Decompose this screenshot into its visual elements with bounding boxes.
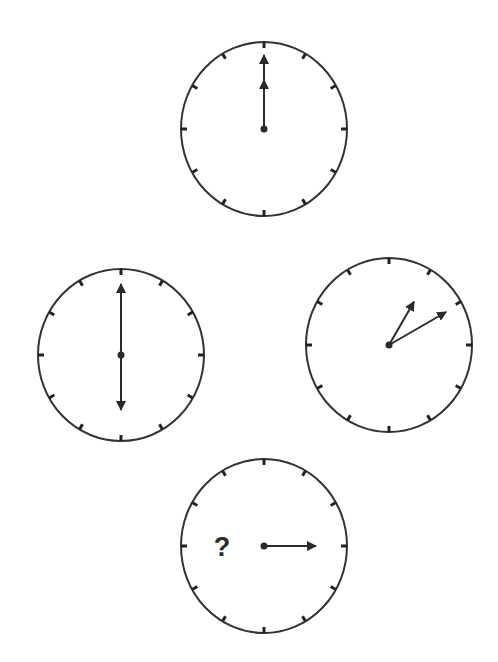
tick-mark <box>192 86 197 89</box>
tick-mark <box>428 270 431 275</box>
clock-bottom <box>181 459 347 633</box>
tick-mark <box>331 503 336 506</box>
tick-mark <box>456 386 461 389</box>
tick-mark <box>192 170 197 173</box>
clock-center-dot <box>118 352 125 359</box>
tick-mark <box>303 616 306 621</box>
tick-mark <box>160 281 163 286</box>
question-mark: ? <box>214 532 231 562</box>
tick-mark <box>49 395 54 398</box>
tick-mark <box>303 199 306 204</box>
tick-mark <box>317 386 322 389</box>
clock-center-dot <box>386 342 393 349</box>
clock-top <box>181 42 347 216</box>
tick-mark <box>80 424 83 429</box>
tick-mark <box>192 587 197 590</box>
clock-center-dot <box>261 543 268 550</box>
tick-mark <box>428 415 431 420</box>
tick-mark <box>331 587 336 590</box>
tick-mark <box>188 312 193 315</box>
tick-mark <box>160 424 163 429</box>
tick-mark <box>192 503 197 506</box>
tick-mark <box>331 86 336 89</box>
clocks-layer <box>38 42 472 633</box>
tick-mark <box>303 54 306 59</box>
tick-mark <box>188 395 193 398</box>
tick-mark <box>80 281 83 286</box>
tick-mark <box>456 302 461 305</box>
tick-mark <box>331 170 336 173</box>
clock-center-dot <box>261 126 268 133</box>
tick-mark <box>348 415 351 420</box>
tick-mark <box>223 199 226 204</box>
tick-mark <box>223 616 226 621</box>
tick-mark <box>223 54 226 59</box>
clock-right <box>306 258 472 432</box>
tick-mark <box>223 471 226 476</box>
tick-mark <box>348 270 351 275</box>
clock-left <box>38 269 204 441</box>
clock-puzzle-diagram: ? <box>0 0 498 662</box>
tick-mark <box>303 471 306 476</box>
tick-mark <box>317 302 322 305</box>
tick-mark <box>49 312 54 315</box>
